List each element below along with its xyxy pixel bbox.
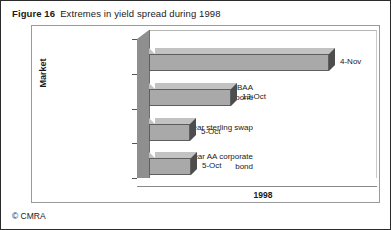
bar-face[interactable] xyxy=(149,124,190,141)
bar-face[interactable] xyxy=(149,54,329,71)
figure-caption: Figure 16Extremes in yield spread during… xyxy=(12,8,221,19)
bar-face[interactable] xyxy=(149,158,191,175)
bar-value-label: 13-Oct xyxy=(242,92,266,101)
category-tick xyxy=(132,143,137,144)
category-tick xyxy=(132,74,137,75)
category-tick xyxy=(132,109,137,110)
x-axis-title: 1998 xyxy=(149,190,377,200)
category-tick xyxy=(132,39,137,40)
figure-number: Figure 16 xyxy=(12,8,55,19)
bar-value-label: 5-Oct xyxy=(201,127,221,136)
figure-caption-text: Extremes in yield spread during 1998 xyxy=(60,8,220,19)
plot-area: US 10 year BBB corporate bond 4-Nov UK 5… xyxy=(128,30,378,198)
category-tick xyxy=(132,178,137,179)
chart-frame: Market US 10 year BBB corporate bond xyxy=(31,25,380,203)
wall-top-bevel xyxy=(137,30,149,39)
bar-face[interactable] xyxy=(149,89,231,106)
y-axis-title: Market xyxy=(38,28,48,118)
figure-container: Figure 16Extremes in yield spread during… xyxy=(0,0,391,230)
bar-value-label: 4-Nov xyxy=(340,57,361,66)
bar-value-label: 5-Oct xyxy=(202,161,222,170)
floor-panel xyxy=(137,178,377,187)
left-wall xyxy=(137,39,149,178)
copyright-notice: © CMRA xyxy=(12,211,46,221)
